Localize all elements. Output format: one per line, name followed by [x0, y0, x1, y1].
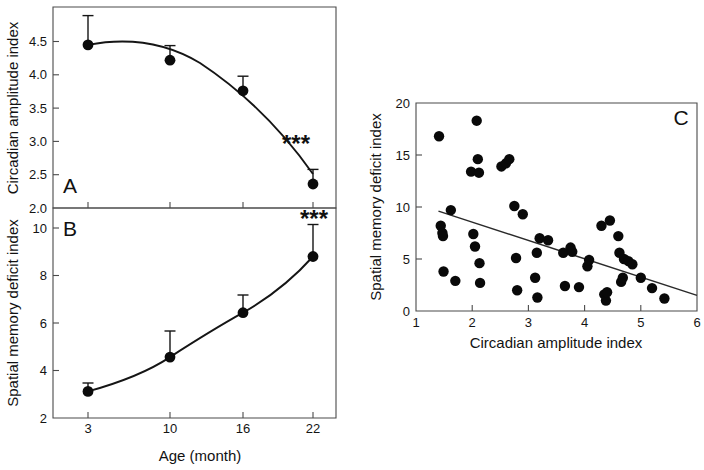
- panel-b-ytick-3: 4: [40, 363, 47, 378]
- scientific-figure: 4.5 4.0 3.5 3.0 2.5 2.0: [0, 0, 704, 470]
- panel-c-point-23: [532, 248, 542, 258]
- panel-c-point-39: [613, 231, 623, 241]
- panel-a-point-2: [238, 85, 249, 96]
- panel-c-point-46: [636, 273, 646, 283]
- panel-a-point-0: [83, 40, 94, 51]
- panel-c-point-37: [602, 287, 612, 297]
- panel-b-ytick-4: 2: [40, 411, 47, 426]
- panel-b-ytick-2: 6: [40, 316, 47, 331]
- panel-b-data-markers: [83, 251, 319, 397]
- panel-a-ylabel: Circadian amplitude index: [4, 21, 21, 194]
- panel-c-point-48: [659, 293, 669, 303]
- panel-c-ytick-1: 15: [396, 148, 410, 163]
- panel-b-ylabel: Spatial memory deficit index: [4, 219, 21, 407]
- panel-a-x-ticks: [88, 202, 313, 208]
- panel-c-letter: C: [673, 106, 688, 129]
- panel-c-point-45: [627, 259, 637, 269]
- panel-c-point-42: [618, 273, 628, 283]
- panel-c-point-12: [474, 167, 484, 177]
- panel-c-point-8: [468, 229, 478, 239]
- panel-a-ytick-4: 2.5: [29, 167, 47, 182]
- panel-c-xlabel: Circadian amplitude index: [470, 334, 643, 351]
- panel-c-point-10: [472, 115, 482, 125]
- panel-a-point-1: [165, 55, 176, 66]
- panel-b-y-ticks: [53, 228, 59, 371]
- panel-a-ytick-1: 4.0: [29, 67, 47, 82]
- panel-c-ytick-3: 5: [403, 252, 410, 267]
- panel-a-y-ticks: [53, 42, 59, 175]
- panel-b-point-1: [165, 352, 176, 363]
- panel-c-point-9: [470, 241, 480, 251]
- panel-c-point-13: [474, 258, 484, 268]
- panel-b: 10 8 6 4 2: [4, 205, 336, 464]
- panel-c-scatter-points: [434, 115, 670, 305]
- panel-c-xtick-4: 5: [637, 315, 644, 330]
- panel-c-point-28: [560, 281, 570, 291]
- panel-c-xtick-2: 3: [525, 315, 532, 330]
- panel-c-point-33: [584, 255, 594, 265]
- panel-c-point-21: [518, 209, 528, 219]
- panel-c-point-47: [647, 283, 657, 293]
- panel-b-fit-curve: [88, 257, 313, 392]
- panel-c-point-19: [511, 253, 521, 263]
- panel-b-plot-frame: [53, 208, 336, 418]
- panel-a-plot-frame: [53, 7, 336, 208]
- panel-b-xtick-2: 16: [236, 421, 250, 436]
- panel-a-ytick-0: 4.5: [29, 34, 47, 49]
- panel-c-ytick-0: 20: [396, 96, 410, 111]
- panel-a-ytick-3: 3.0: [29, 134, 47, 149]
- panel-c-point-22: [530, 273, 540, 283]
- panel-c-point-14: [475, 278, 485, 288]
- panel-c-y-ticks: [416, 155, 422, 259]
- panel-b-ytick-0: 10: [33, 221, 47, 236]
- panel-a-fit-curve: [88, 42, 313, 174]
- panel-c-point-4: [438, 266, 448, 276]
- panel-c-point-31: [574, 282, 584, 292]
- panel-c-point-5: [446, 205, 456, 215]
- panel-c-point-3: [438, 231, 448, 241]
- panel-b-xtick-1: 10: [163, 421, 177, 436]
- panel-a: 4.5 4.0 3.5 3.0 2.5 2.0: [4, 7, 336, 216]
- panel-b-error-bars: [83, 225, 319, 392]
- panel-c-ytick-4: 0: [403, 304, 410, 319]
- panel-b-xtick-0: 3: [84, 421, 91, 436]
- panel-c-point-24: [532, 292, 542, 302]
- panel-b-point-2: [238, 307, 249, 318]
- panel-c-point-30: [567, 247, 577, 257]
- panel-c: 20 15 10 5 0 1 2 3 4 5 6 C: [367, 96, 701, 351]
- panel-c-point-0: [434, 131, 444, 141]
- panel-a-ytick-2: 3.5: [29, 101, 47, 116]
- panel-c-point-17: [504, 154, 514, 164]
- panel-b-xlabel: Age (month): [159, 447, 242, 464]
- panel-c-point-20: [512, 285, 522, 295]
- panel-b-x-ticks: [88, 412, 313, 418]
- panel-c-ylabel: Spatial memory deficit index: [367, 113, 384, 301]
- panel-a-point-3: [308, 179, 319, 190]
- panel-b-xtick-3: 22: [306, 421, 320, 436]
- panel-c-xtick-1: 2: [469, 315, 476, 330]
- panel-b-letter: B: [63, 217, 77, 240]
- panel-a-letter: A: [63, 174, 77, 197]
- panel-b-point-3: [308, 251, 319, 262]
- panel-c-xtick-0: 1: [412, 315, 419, 330]
- panel-c-point-26: [543, 235, 553, 245]
- panel-c-xtick-5: 6: [693, 315, 700, 330]
- panel-c-point-11: [473, 154, 483, 164]
- panel-b-ytick-1: 8: [40, 268, 47, 283]
- panel-b-significance: ***: [300, 205, 329, 232]
- panel-c-xtick-3: 4: [581, 315, 588, 330]
- figure-canvas: 4.5 4.0 3.5 3.0 2.5 2.0: [0, 0, 704, 470]
- panel-c-point-18: [509, 201, 519, 211]
- panel-c-x-ticks: [472, 305, 641, 311]
- panel-b-point-0: [83, 386, 94, 397]
- panel-c-point-38: [605, 215, 615, 225]
- panel-c-point-6: [450, 276, 460, 286]
- panel-a-data-markers: [83, 40, 319, 190]
- panel-a-significance: ***: [282, 130, 311, 157]
- panel-c-ytick-2: 10: [396, 200, 410, 215]
- panel-a-ytick-5: 2.0: [29, 201, 47, 216]
